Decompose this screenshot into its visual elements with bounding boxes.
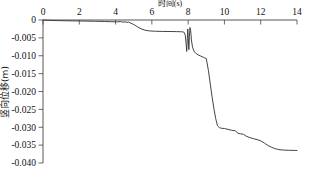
y-tick-label: -0.030	[11, 123, 36, 133]
y-tick-label: -0.020	[11, 87, 36, 97]
plot-area	[43, 20, 297, 150]
x-tick-label: 10	[220, 7, 230, 17]
x-axis-title: 时间(s)	[158, 0, 183, 8]
x-tick-label: 2	[77, 7, 82, 17]
chart-figure: 02468101214 0-0.005-0.010-0.015-0.020-0.…	[0, 0, 310, 179]
y-tick-label: -0.010	[11, 51, 36, 61]
y-axis	[39, 20, 44, 163]
y-tick-label: -0.005	[11, 33, 36, 43]
y-tick-label: -0.025	[11, 105, 36, 115]
x-tick-label: 12	[256, 7, 266, 17]
series-line-vertical-displacement	[43, 20, 297, 150]
y-tick-label: -0.015	[11, 69, 36, 79]
y-axis-title: 竖向位移(m)	[0, 66, 10, 118]
y-tick-label: -0.040	[11, 158, 36, 168]
x-tick-label: 4	[113, 7, 118, 17]
y-tick-label: 0	[31, 15, 36, 25]
x-axis-tick-labels: 02468101214	[41, 7, 302, 17]
x-tick-label: 14	[292, 7, 302, 17]
x-tick-label: 6	[149, 7, 154, 17]
y-axis-tick-labels: 0-0.005-0.010-0.015-0.020-0.025-0.030-0.…	[11, 15, 36, 168]
y-tick-label: -0.035	[11, 140, 36, 150]
y-axis-ticks	[39, 20, 44, 163]
x-tick-label: 0	[41, 7, 46, 17]
x-tick-label: 8	[186, 7, 191, 17]
